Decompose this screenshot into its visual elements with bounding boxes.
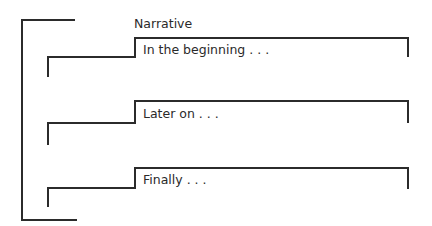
narrative-structure-diagram: Narrative In the beginning . . . Later o…	[0, 0, 432, 226]
section-3-label: Finally . . .	[143, 174, 207, 187]
section-1-label: In the beginning . . .	[143, 44, 269, 57]
section-3-bracket	[48, 168, 408, 206]
section-2-label: Later on . . .	[143, 108, 219, 121]
diagram-title: Narrative	[134, 18, 192, 31]
section-2-bracket	[48, 101, 408, 144]
